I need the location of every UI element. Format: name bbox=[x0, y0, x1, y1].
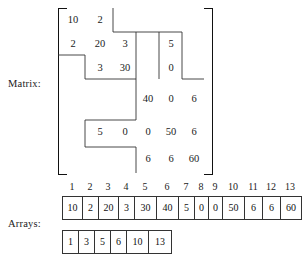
array-index-label: 4 bbox=[118, 180, 134, 194]
array-index-label: 1 bbox=[62, 180, 82, 194]
matrix-cell: 6 bbox=[183, 93, 205, 104]
matrix-cell: 6 bbox=[183, 126, 205, 137]
array-index-label: 7 bbox=[178, 180, 194, 194]
matrix-cell: 3 bbox=[89, 62, 111, 73]
matrix-cell: 2 bbox=[62, 38, 84, 49]
values-array-cell: 2 bbox=[83, 197, 99, 219]
array-index-label: 5 bbox=[134, 180, 156, 194]
matrix-label: Matrix: bbox=[8, 78, 41, 89]
pointer-array: 13561013 bbox=[62, 230, 172, 254]
matrix-cell: 50 bbox=[160, 126, 182, 137]
pointer-array-cell: 10 bbox=[127, 231, 149, 253]
matrix-cell: 5 bbox=[89, 126, 111, 137]
array-index-label: 8 bbox=[194, 180, 208, 194]
array-index-label: 2 bbox=[82, 180, 98, 194]
pointer-array-cell: 3 bbox=[79, 231, 95, 253]
values-array-cell: 40 bbox=[157, 197, 179, 219]
matrix-cell: 0 bbox=[114, 126, 136, 137]
values-array-cell: 0 bbox=[209, 197, 223, 219]
arrays-figure: Arrays: 12345678910111213 10220330405005… bbox=[0, 178, 306, 279]
values-array-cell: 5 bbox=[179, 197, 195, 219]
array-index-label: 6 bbox=[156, 180, 178, 194]
values-array-cell: 6 bbox=[263, 197, 281, 219]
matrix-cell: 60 bbox=[183, 153, 205, 164]
pointer-array-cell: 13 bbox=[149, 231, 171, 253]
matrix-cell: 5 bbox=[160, 38, 182, 49]
array-index-label: 13 bbox=[280, 180, 300, 194]
matrix-bracket-left bbox=[58, 8, 67, 175]
matrix-cell: 3 bbox=[114, 38, 136, 49]
matrix-cell: 6 bbox=[137, 153, 159, 164]
matrix-cell: 20 bbox=[89, 38, 111, 49]
values-array-cell: 50 bbox=[223, 197, 245, 219]
pointer-array-cell: 1 bbox=[63, 231, 79, 253]
matrix-cell: 0 bbox=[160, 93, 182, 104]
matrix-bracket-right bbox=[204, 8, 213, 175]
values-array-cell: 30 bbox=[135, 197, 157, 219]
matrix-cell: 10 bbox=[62, 14, 84, 25]
values-array-cell: 60 bbox=[281, 197, 301, 219]
matrix-cell: 6 bbox=[160, 153, 182, 164]
arrays-label: Arrays: bbox=[8, 218, 41, 229]
values-array-cell: 20 bbox=[99, 197, 119, 219]
array-index-label: 12 bbox=[262, 180, 280, 194]
matrix-cell: 2 bbox=[89, 14, 111, 25]
matrix-cell: 0 bbox=[137, 126, 159, 137]
matrix-cell: 30 bbox=[114, 62, 136, 73]
matrix-figure: Matrix: 10 2 2 20 3 5 3 30 0 40 0 6 5 0 … bbox=[0, 0, 306, 182]
values-array-cell: 10 bbox=[63, 197, 83, 219]
pointer-array-cell: 5 bbox=[95, 231, 111, 253]
values-array-cell: 6 bbox=[245, 197, 263, 219]
array-index-label: 9 bbox=[208, 180, 222, 194]
array-index-header: 12345678910111213 bbox=[62, 180, 300, 194]
values-array: 1022033040500506660 bbox=[62, 196, 302, 220]
pointer-array-cell: 6 bbox=[111, 231, 127, 253]
array-index-label: 10 bbox=[222, 180, 244, 194]
matrix-cell: 40 bbox=[137, 93, 159, 104]
values-array-cell: 3 bbox=[119, 197, 135, 219]
array-index-label: 3 bbox=[98, 180, 118, 194]
values-array-cell: 0 bbox=[195, 197, 209, 219]
matrix-cell: 0 bbox=[160, 62, 182, 73]
array-index-label: 11 bbox=[244, 180, 262, 194]
